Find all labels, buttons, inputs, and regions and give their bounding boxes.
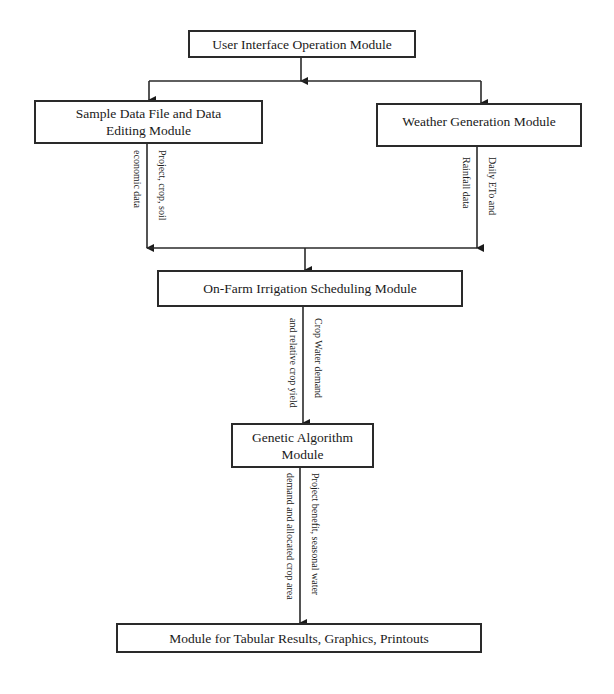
edge-label-project-benefit: Project benefit, seasonal water xyxy=(310,473,321,595)
edge-label-relative-crop-yield: and relative crop yield xyxy=(288,318,299,408)
edge-label-rainfall-data: Rainfall data xyxy=(461,157,472,208)
node-sample-data-file-module: Sample Data File and Data Editing Module xyxy=(34,100,263,144)
node-label: On-Farm Irrigation Scheduling Module xyxy=(203,280,416,297)
edge-label-daily-eto: Daily ETo and xyxy=(487,157,498,215)
node-user-interface-operation-module: User Interface Operation Module xyxy=(188,30,416,58)
node-weather-generation-module: Weather Generation Module xyxy=(376,103,582,147)
node-label: User Interface Operation Module xyxy=(212,36,392,53)
node-genetic-algorithm-module: Genetic Algorithm Module xyxy=(231,423,374,468)
node-label: Genetic Algorithm Module xyxy=(251,429,354,463)
edge-label-economic-data: economic data xyxy=(132,150,143,208)
node-results-module: Module for Tabular Results, Graphics, Pr… xyxy=(116,623,482,653)
node-label: Weather Generation Module xyxy=(402,113,555,130)
edge-label-crop-water-demand: Crop Water demand xyxy=(313,318,324,398)
node-label: Sample Data File and Data Editing Module xyxy=(66,105,231,139)
node-on-farm-irrigation-scheduling-module: On-Farm Irrigation Scheduling Module xyxy=(157,270,463,307)
edge-label-allocated-crop-area: demand and allocated crop area xyxy=(285,473,296,600)
node-label: Module for Tabular Results, Graphics, Pr… xyxy=(169,630,428,647)
edge-label-project-crop-soil: Project, crop, soil xyxy=(157,150,168,221)
